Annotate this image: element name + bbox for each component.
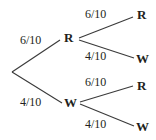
leaf-node-WR: R [137, 79, 146, 92]
edge-label-W-to-R: 6/10 [85, 76, 106, 88]
node-level1-W: W [64, 96, 77, 109]
edge-label-root-to-W: 4/10 [20, 96, 41, 108]
leaf-node-RW: W [136, 52, 149, 65]
tree-branches [0, 0, 156, 140]
edge-label-root-to-R: 6/10 [20, 34, 41, 46]
edge-label-W-to-W: 4/10 [85, 118, 106, 130]
leaf-node-RR: R [137, 8, 146, 21]
edge-label-R-to-R: 6/10 [85, 8, 106, 20]
leaf-node-WW: W [136, 120, 149, 133]
node-level1-R: R [64, 31, 73, 44]
edge-label-R-to-W: 4/10 [85, 50, 106, 62]
probability-tree-diagram: R W R W R W 6/10 4/10 6/10 4/10 6/10 4/1… [0, 0, 156, 140]
